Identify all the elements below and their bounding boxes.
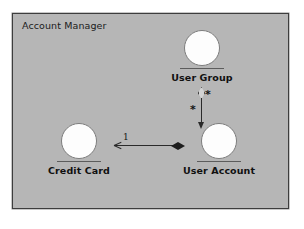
package-title: Account Manager [22, 20, 107, 31]
arrowhead-down-icon [198, 122, 204, 129]
diagram-canvas: Account Manager User Group Credit Card U… [0, 0, 304, 229]
interface-label-credit-card: Credit Card [33, 165, 125, 176]
multiplicity-source-usergroup: * [205, 89, 211, 100]
aggregation-diamond-icon [198, 87, 205, 99]
interface-node-credit-card[interactable]: Credit Card [33, 123, 125, 176]
interface-label-user-group: User Group [156, 72, 248, 83]
interface-node-user-account[interactable]: User Account [173, 123, 265, 176]
multiplicity-target-creditcard: 1 [123, 133, 129, 142]
interface-label-user-account: User Account [173, 165, 265, 176]
multiplicity-target-useraccount: * [190, 104, 196, 115]
interface-node-user-group[interactable]: User Group [156, 30, 248, 83]
connector-shaft [201, 98, 202, 124]
lollipop-circle-icon [61, 123, 97, 159]
lollipop-underline [197, 161, 241, 162]
lollipop-circle-icon [184, 30, 220, 66]
lollipop-circle-icon [201, 123, 237, 159]
lollipop-underline [57, 161, 101, 162]
lollipop-underline [180, 68, 224, 69]
package-account-manager[interactable]: Account Manager User Group Credit Card U… [12, 13, 289, 209]
connector-shaft [114, 145, 176, 146]
